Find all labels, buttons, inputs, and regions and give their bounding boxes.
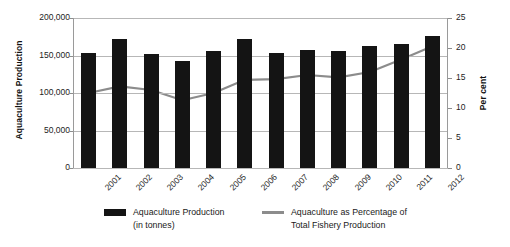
legend-label-percentage: Aquaculture as Percentage of Total Fishe… [291, 206, 407, 231]
gridline [73, 56, 448, 57]
y-tick-label-right: 15 [456, 72, 478, 82]
aquaculture-production-chart: Aquaculture Production Per cent 050,0001… [0, 0, 510, 247]
x-tick-label-2005: 2005 [227, 172, 247, 192]
legend-label-percentage-line2: Total Fishery Production [291, 219, 407, 232]
y-tick-mark-right [448, 138, 452, 139]
legend-label-percentage-line1: Aquaculture as Percentage of [291, 206, 407, 219]
x-tick-label-2002: 2002 [133, 172, 153, 192]
y-tick-label-right: 25 [456, 12, 478, 22]
gridline [73, 18, 448, 19]
axis-line-right [447, 18, 448, 168]
bar-2006 [237, 39, 252, 168]
legend-label-production-line2: (in tonnes) [133, 219, 224, 232]
legend-line-swatch-icon [262, 211, 284, 214]
gridline [73, 93, 448, 94]
axis-line-left [73, 18, 74, 168]
x-tick-label-2006: 2006 [258, 172, 278, 192]
bar-2012 [425, 36, 440, 168]
y-tick-label-left: 50,000 [26, 125, 70, 135]
bar-2001 [81, 53, 96, 169]
bar-2007 [269, 53, 284, 169]
y-tick-mark-right [448, 18, 452, 19]
y-tick-label-left: 200,000 [26, 12, 70, 22]
x-tick-label-2003: 2003 [165, 172, 185, 192]
gridline [73, 131, 448, 132]
y-tick-label-left: 150,000 [26, 50, 70, 60]
bar-2002 [112, 39, 127, 168]
legend-label-production-line1: Aquaculture Production [133, 206, 224, 219]
y-tick-label-left: 100,000 [26, 87, 70, 97]
x-tick-label-2009: 2009 [352, 172, 372, 192]
x-tick-label-2007: 2007 [290, 172, 310, 192]
y-tick-mark-right [448, 78, 452, 79]
x-tick-label-2001: 2001 [102, 172, 122, 192]
bar-2004 [175, 61, 190, 168]
bar-2011 [394, 44, 409, 168]
y-tick-label-right: 5 [456, 132, 478, 142]
x-tick-label-2011: 2011 [414, 172, 434, 192]
x-tick-label-2010: 2010 [383, 172, 403, 192]
chart-legend: Aquaculture Production (in tonnes) Aquac… [0, 206, 510, 242]
bar-2008 [300, 50, 315, 169]
bar-2005 [206, 51, 221, 168]
x-tick-label-2004: 2004 [196, 172, 216, 192]
plot-area [73, 18, 448, 168]
bar-2010 [362, 46, 377, 168]
bar-2003 [144, 54, 159, 168]
y-tick-label-right: 20 [456, 42, 478, 52]
y-tick-label-right: 10 [456, 102, 478, 112]
legend-item-aquaculture-production: Aquaculture Production (in tonnes) [104, 206, 224, 231]
x-tick-label-2008: 2008 [321, 172, 341, 192]
legend-bar-swatch-icon [104, 209, 126, 216]
y-tick-mark-right [448, 48, 452, 49]
y-tick-mark-right [448, 168, 452, 169]
y-tick-label-right: 0 [456, 162, 478, 172]
x-axis-labels: 2001200220032004200520062007200820092010… [73, 168, 448, 208]
bar-2009 [331, 51, 346, 168]
y-tick-mark-right [448, 108, 452, 109]
y-tick-label-left: 0 [26, 162, 70, 172]
legend-label-production: Aquaculture Production (in tonnes) [133, 206, 224, 231]
legend-item-percentage: Aquaculture as Percentage of Total Fishe… [262, 206, 407, 231]
